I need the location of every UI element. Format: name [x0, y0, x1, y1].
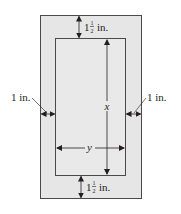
bottom-margin-num: 1 [93, 180, 96, 186]
width-y-label: y [86, 141, 92, 153]
bottom-margin-den: 2 [93, 188, 96, 194]
top-margin-den: 2 [91, 28, 94, 34]
poster-diagram: 1 1 2 in. x y 1 in. 1 in. 1 1 2 in. [0, 0, 181, 214]
left-margin-label: 1 in. [11, 91, 31, 103]
top-margin-whole: 1 [84, 21, 90, 33]
right-margin-label: 1 in. [147, 91, 167, 103]
top-margin-unit: in. [97, 21, 109, 33]
height-x-label: x [104, 100, 110, 112]
top-margin-num: 1 [91, 20, 94, 26]
inner-print-rect [56, 39, 126, 176]
bottom-margin-unit: in. [99, 181, 111, 193]
bottom-margin-whole: 1 [86, 181, 92, 193]
